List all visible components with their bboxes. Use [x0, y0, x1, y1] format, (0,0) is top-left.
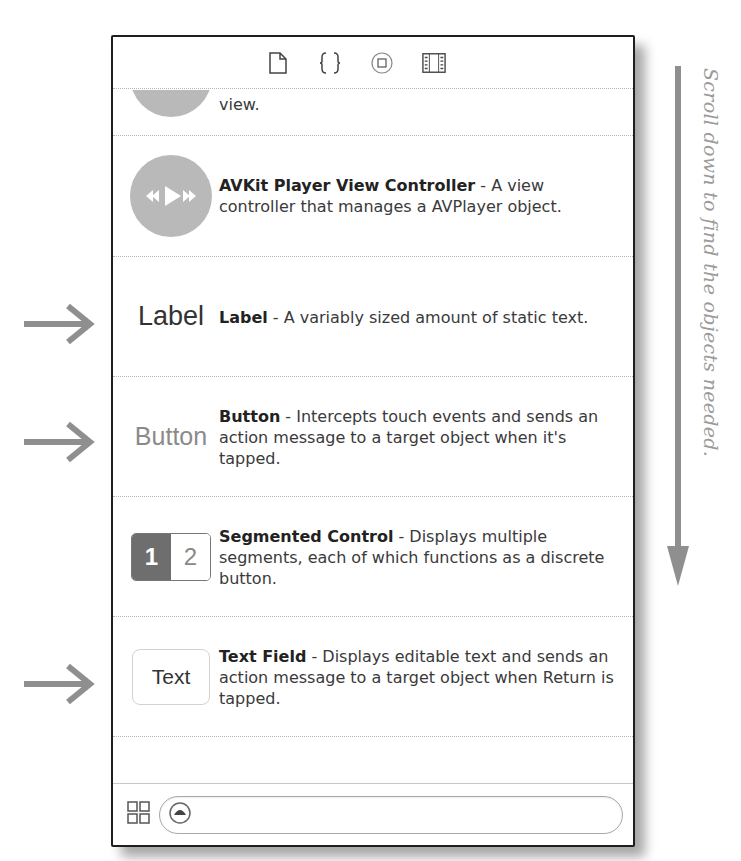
library-filter-field[interactable] [159, 796, 623, 834]
scroll-down-arrow [666, 66, 690, 586]
filter-scope-icon[interactable] [168, 801, 192, 829]
file-template-icon[interactable] [266, 51, 290, 75]
code-snippet-icon[interactable] [318, 51, 342, 75]
avkit-player-icon [127, 156, 215, 236]
item-description: Text Field - Displays editable text and … [219, 645, 617, 708]
annotation-arrow-label [20, 302, 100, 346]
item-title: Segmented Control [219, 526, 393, 545]
list-item[interactable]: Label Label - A variably sized amount of… [113, 257, 633, 377]
media-library-icon[interactable] [422, 51, 446, 75]
item-title: Label [219, 307, 268, 326]
item-description: Segmented Control - Displays multiple se… [219, 525, 617, 588]
scroll-down-note: Scroll down to find the objects needed. [700, 68, 722, 457]
object-library-icon[interactable] [370, 51, 394, 75]
segmented-control-thumbnail: 1 2 [127, 517, 215, 597]
item-title: AVKit Player View Controller [219, 176, 475, 195]
list-item[interactable]: 1 2 Segmented Control - Displays multipl… [113, 497, 633, 617]
list-item[interactable]: view. [113, 90, 633, 136]
list-item[interactable]: Button Button - Intercepts touch events … [113, 377, 633, 497]
annotation-arrow-button [20, 420, 100, 464]
item-description: Button - Intercepts touch events and sen… [219, 405, 617, 468]
item-description: AVKit Player View Controller - A view co… [219, 175, 617, 217]
item-description: Label - A variably sized amount of stati… [219, 306, 617, 327]
object-library-panel: view. AVKit Player View Controller - A v… [111, 35, 635, 847]
library-footer [113, 783, 633, 845]
library-toolbar [113, 37, 633, 89]
grid-view-icon[interactable] [127, 801, 151, 829]
item-description: view. [219, 94, 617, 115]
item-title: Text Field [219, 646, 306, 665]
library-list[interactable]: view. AVKit Player View Controller - A v… [113, 90, 633, 783]
list-item[interactable]: Text Text Field - Displays editable text… [113, 617, 633, 737]
text-field-thumbnail: Text [127, 637, 215, 717]
item-title: Button [219, 406, 280, 425]
button-thumbnail: Button [127, 397, 215, 477]
annotation-arrow-text-field [20, 662, 100, 706]
filter-input[interactable] [198, 806, 622, 824]
partial-view-icon [127, 90, 215, 116]
label-thumbnail: Label [127, 277, 215, 357]
list-item[interactable]: AVKit Player View Controller - A view co… [113, 136, 633, 257]
list-item[interactable]: Slider - Displays a continuous range [113, 737, 633, 783]
